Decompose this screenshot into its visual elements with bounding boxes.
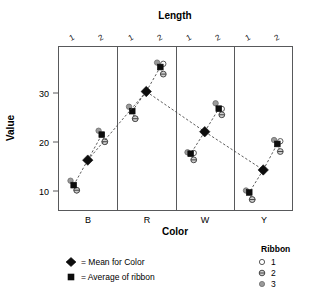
legend-average-label: = Average of ribbon (81, 272, 155, 282)
data-series-layer (68, 60, 283, 203)
legend-ribbon-3-icon (259, 281, 264, 286)
y-axis-title: Value (5, 115, 16, 142)
mean-to-cell-connector-B-1 (74, 160, 88, 185)
strip-label-w-2: 2 (214, 33, 223, 43)
strip-label-r-1: 1 (127, 33, 136, 43)
average-square-R-2 (157, 64, 163, 70)
legend-ribbon-2-label: 2 (271, 268, 276, 278)
y-axis-ticks: 30 20 10 (39, 89, 58, 197)
panel-labels-color: B R W Y (85, 215, 267, 225)
legend-ribbon-title: Ribbon (261, 244, 290, 254)
panel-label-b: B (85, 215, 91, 225)
legend-ribbon-3-label: 3 (271, 279, 276, 289)
strip-labels-length: 1 2 1 2 1 2 1 2 (68, 33, 282, 43)
legend-ribbon-1-icon (259, 259, 264, 264)
y-tick-label-30: 30 (39, 89, 49, 99)
chart-top-title: Length (158, 10, 191, 21)
strip-label-y-1: 1 (244, 33, 253, 43)
mean-to-cell-connector-R-2 (146, 67, 160, 92)
strip-label-b-2: 2 (97, 33, 106, 43)
legend-ribbon-1-label: 1 (271, 257, 276, 267)
legend-ribbon: Ribbon 1 2 3 (259, 244, 290, 289)
strip-label-w-1: 1 (185, 33, 194, 43)
mean-diamond-W (200, 127, 210, 137)
strip-label-b-1: 1 (68, 33, 77, 43)
legend-mean-label: = Mean for Color (81, 257, 145, 267)
strip-label-r-2: 2 (156, 33, 165, 43)
mean-to-cell-connector-Y-2 (263, 144, 277, 170)
legend-mean-diamond-icon (66, 258, 76, 267)
average-square-W-1 (188, 151, 194, 157)
chart-container: Length Value Color 30 20 10 1 2 1 2 1 2 … (0, 0, 319, 301)
average-square-B-2 (99, 132, 105, 138)
average-square-B-1 (71, 182, 77, 188)
legend-marks: = Mean for Color = Average of ribbon (66, 257, 155, 282)
chart-svg: Length Value Color 30 20 10 1 2 1 2 1 2 … (0, 0, 319, 301)
mean-diamond-Y (258, 165, 268, 175)
mean-trend-segment-1 (146, 92, 205, 132)
panel-label-y: Y (261, 215, 267, 225)
mean-trend-line (88, 92, 264, 170)
x-axis-title: Color (162, 226, 188, 237)
average-square-W-2 (216, 106, 222, 112)
strip-label-y-2: 2 (273, 33, 282, 43)
average-square-Y-2 (274, 141, 280, 147)
mean-to-cell-connector-B-2 (88, 135, 102, 160)
plot-frame (59, 47, 293, 211)
y-tick-label-20: 20 (39, 138, 49, 148)
legend-average-square-icon (68, 274, 74, 280)
average-square-Y-1 (246, 190, 252, 196)
panel-label-r: R (144, 215, 151, 225)
ribbon-3-point-W-2 (213, 101, 218, 106)
mean-diamonds (83, 86, 269, 175)
y-tick-label-10: 10 (39, 187, 49, 197)
panel-label-w: W (201, 215, 210, 225)
average-square-R-1 (129, 108, 135, 114)
